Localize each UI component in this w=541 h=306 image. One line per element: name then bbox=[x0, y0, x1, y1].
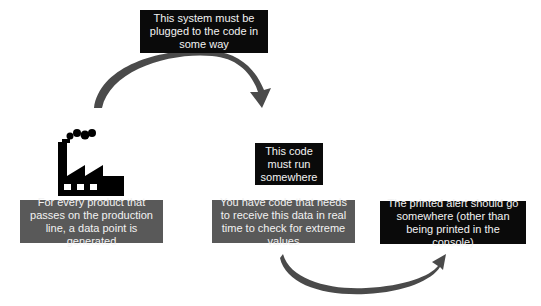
source-text: For every product that passes on the pro… bbox=[24, 196, 159, 248]
processor-box: You have code that needs to receive this… bbox=[212, 200, 355, 243]
top-curved-arrow bbox=[94, 50, 271, 108]
factory-icon bbox=[58, 129, 124, 196]
processor-text: You have code that needs to receive this… bbox=[216, 196, 351, 248]
top-note-box: This system must be plugged to the code … bbox=[140, 10, 268, 53]
bottom-curved-arrow bbox=[280, 254, 446, 294]
output-note-text: The printed alert should go somewhere (o… bbox=[384, 197, 522, 249]
output-note-box: The printed alert should go somewhere (o… bbox=[380, 201, 526, 244]
run-note-text: This code must run somewhere bbox=[259, 145, 319, 184]
source-box: For every product that passes on the pro… bbox=[20, 200, 163, 243]
top-note-text: This system must be plugged to the code … bbox=[144, 12, 264, 51]
run-note-box: This code must run somewhere bbox=[255, 143, 323, 185]
